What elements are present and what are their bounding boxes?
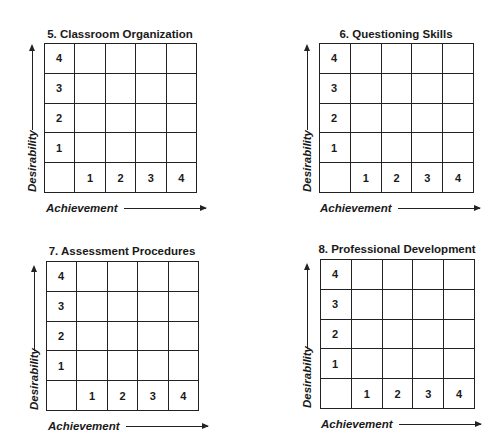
grid-cell[interactable] [412,133,443,163]
y-tick: 3 [47,292,77,322]
grid-cell[interactable] [443,133,474,163]
arrow-right-icon [475,421,482,427]
x-tick: 2 [383,379,414,409]
grid-cell[interactable] [443,74,474,104]
grid-cell[interactable] [382,44,413,74]
panel-title: 6. Questioning Skills [296,28,496,40]
grid-cell[interactable] [138,262,168,292]
y-tick: 2 [321,320,352,350]
corner-cell [321,379,352,409]
grid-cell[interactable] [351,133,382,163]
x-tick: 1 [351,163,382,193]
grid-cell[interactable] [108,262,138,292]
corner-cell [47,381,77,411]
grid-cell[interactable] [382,104,413,134]
y-tick: 1 [320,133,351,163]
y-tick: 2 [320,104,351,134]
grid-cell[interactable] [138,322,168,352]
grid-cell[interactable] [352,260,383,290]
arrow-right-icon [202,423,209,429]
panel-title: 7. Assessment Procedures [22,245,222,257]
grid-cell[interactable] [443,104,474,134]
y-tick: 4 [320,44,351,74]
x-tick: 4 [169,381,199,411]
grid-cell[interactable] [169,262,199,292]
x-tick: 2 [382,163,413,193]
arrow-right-icon [200,205,207,211]
x-axis-label: Achievement [48,420,120,432]
y-axis-label: Desirability [301,130,313,192]
grid-cell[interactable] [77,262,107,292]
grid-cell[interactable] [77,322,107,352]
y-tick: 4 [47,262,77,292]
grid-cell[interactable] [351,44,382,74]
y-tick: 1 [47,351,77,381]
grid-cell[interactable] [169,292,199,322]
grid-cell[interactable] [444,260,475,290]
grid-cell[interactable] [352,349,383,379]
grid-cell[interactable] [444,320,475,350]
grid-cell[interactable] [108,351,138,381]
x-tick: 3 [413,379,444,409]
y-tick: 3 [320,74,351,104]
grid-cell[interactable] [383,260,414,290]
grid-cell[interactable] [444,349,475,379]
grid-cell[interactable] [413,290,444,320]
corner-cell [320,163,351,193]
y-axis-label: Desirability [301,346,313,408]
x-tick: 3 [412,163,443,193]
y-tick: 3 [321,290,352,320]
x-axis-label: Achievement [321,418,393,430]
rating-grid: 4 3 2 1 1 2 3 4 [46,261,199,411]
grid-cell[interactable] [169,351,199,381]
grid-cell[interactable] [169,322,199,352]
grid-cell[interactable] [352,320,383,350]
y-axis-label: Desirability [28,348,40,410]
grid-cell[interactable] [382,74,413,104]
x-tick: 4 [443,163,474,193]
grid-cell[interactable] [413,349,444,379]
grid-cell[interactable] [413,320,444,350]
grid-cell[interactable] [382,133,413,163]
grid-cell[interactable] [413,260,444,290]
panel-professional-development: 8. Professional Development Desirability… [0,0,200,220]
panel-title: 8. Professional Development [297,243,497,255]
x-tick: 1 [352,379,383,409]
grid-cell[interactable] [383,349,414,379]
grid-cell[interactable] [412,44,443,74]
grid-cell[interactable] [352,290,383,320]
y-tick: 4 [321,260,352,290]
grid-cell[interactable] [77,292,107,322]
grid-cell[interactable] [351,104,382,134]
grid-cell[interactable] [383,290,414,320]
grid-cell[interactable] [412,74,443,104]
x-tick: 3 [138,381,168,411]
x-tick: 2 [108,381,138,411]
grid-cell[interactable] [351,74,382,104]
x-axis-label: Achievement [320,202,392,214]
grid-cell[interactable] [77,351,107,381]
y-tick: 2 [47,322,77,352]
grid-cell[interactable] [444,290,475,320]
x-tick: 1 [77,381,107,411]
arrow-right-icon [474,205,481,211]
x-axis: Achievement [320,201,480,215]
grid-cell[interactable] [108,322,138,352]
grid-cell[interactable] [412,104,443,134]
grid-cell[interactable] [138,351,168,381]
rating-grid: 4 3 2 1 1 2 3 4 [319,43,474,193]
y-tick: 1 [321,349,352,379]
rating-grid: 4 3 2 1 1 2 3 4 [320,259,475,409]
grid-cell[interactable] [108,292,138,322]
grid-cell[interactable] [383,320,414,350]
grid-cell[interactable] [443,44,474,74]
x-axis: Achievement [321,417,481,431]
grid-cell[interactable] [138,292,168,322]
x-tick: 4 [444,379,475,409]
x-axis: Achievement [48,419,208,433]
